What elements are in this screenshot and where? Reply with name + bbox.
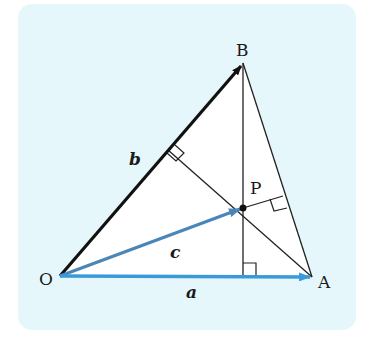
- diagram-canvas: B P O A b c a: [0, 0, 373, 345]
- label-point-p: P: [250, 178, 261, 198]
- label-vector-a: a: [186, 282, 197, 302]
- label-point-b: B: [236, 40, 249, 60]
- point-p-dot: [240, 205, 247, 212]
- label-point-a: A: [317, 272, 331, 292]
- vector-a: [60, 276, 310, 277]
- label-point-o: O: [39, 269, 53, 289]
- label-vector-b: b: [129, 149, 141, 169]
- label-vector-c: c: [170, 242, 181, 262]
